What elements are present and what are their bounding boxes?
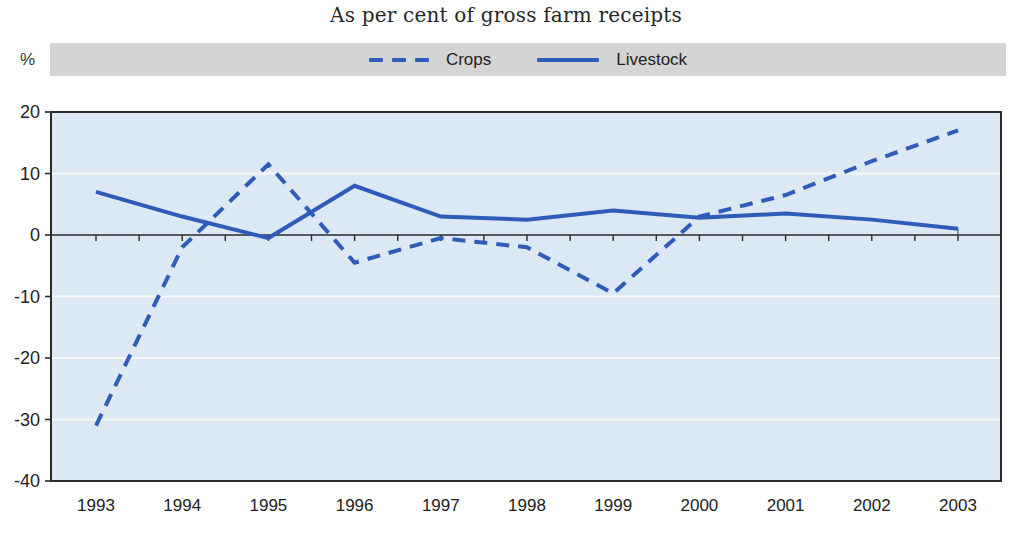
x-year-label: 1993 xyxy=(77,496,115,515)
y-tick-label: 10 xyxy=(20,164,40,184)
x-year-label: 1995 xyxy=(249,496,287,515)
x-year-label: 1994 xyxy=(163,496,201,515)
y-tick-label: -30 xyxy=(14,410,40,430)
x-year-label: 2000 xyxy=(680,496,718,515)
x-year-label: 2002 xyxy=(853,496,891,515)
y-tick-label: -10 xyxy=(14,287,40,307)
x-year-label: 1999 xyxy=(594,496,632,515)
y-tick-label: 0 xyxy=(30,225,40,245)
x-year-label: 1998 xyxy=(508,496,546,515)
y-tick-label: 20 xyxy=(20,102,40,122)
chart-canvas: 20100-10-20-30-4019931994199519961997199… xyxy=(0,0,1012,540)
x-year-label: 1997 xyxy=(422,496,460,515)
y-tick-label: -20 xyxy=(14,348,40,368)
x-year-label: 2001 xyxy=(767,496,805,515)
y-tick-label: -40 xyxy=(14,471,40,491)
x-year-label: 1996 xyxy=(336,496,374,515)
x-year-label: 2003 xyxy=(939,496,977,515)
